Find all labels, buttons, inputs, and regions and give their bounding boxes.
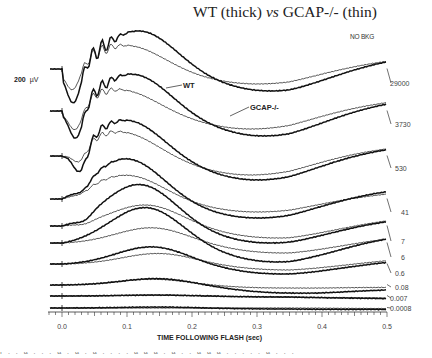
trace-gcap-0.6 (50, 253, 386, 270)
trace-gcap-41 (50, 175, 386, 212)
intensity-label-0.007: 0.007 (390, 295, 408, 302)
trace-wt-6 (50, 207, 386, 262)
trace-wt-0.007 (50, 295, 386, 299)
x-tick-label: 0.4 (317, 323, 327, 330)
x-tick-label: 0.2 (187, 323, 197, 330)
trace-gcap-3730 (50, 88, 386, 130)
label-leader (387, 111, 391, 125)
intensity-label-530: 530 (395, 165, 407, 172)
label-leader (387, 243, 391, 258)
label-leader (387, 226, 391, 242)
erg-traces-plot (0, 0, 432, 358)
x-axis-label: TIME FOLLOWING FLASH (sec) (157, 334, 262, 341)
intensity-label-0.08: 0.08 (395, 284, 409, 291)
intensity-label-7: 7 (401, 238, 405, 245)
intensity-label-41: 41 (401, 209, 409, 216)
intensity-label-0.6: 0.6 (395, 270, 405, 277)
trace-wt-41 (50, 159, 386, 219)
intensity-label-3730: 3730 (395, 121, 411, 128)
intensity-label-0.0008: 0.0008 (390, 305, 411, 312)
label-leader (387, 264, 391, 274)
x-tick-label: 0.3 (252, 323, 262, 330)
label-leader (387, 199, 391, 213)
annotation-gcap: GCAP-/- (250, 103, 279, 112)
intensity-label-6: 6 (401, 254, 405, 261)
annotation-wt: WT (183, 81, 195, 90)
trace-wt-530 (50, 120, 386, 180)
caption-fragment: f . . a . . . a . a . a . . . . a a a . … (0, 352, 300, 358)
x-tick-label: 0.0 (57, 323, 67, 330)
label-leader (387, 285, 391, 288)
arrow-wt-icon (166, 85, 182, 88)
x-tick-label: 0.5 (382, 323, 392, 330)
intensity-label-29000: 29000 (390, 80, 409, 87)
arrow-gcap-icon (230, 107, 249, 116)
trace-wt-7 (50, 184, 386, 243)
label-leader (387, 156, 391, 169)
x-tick-label: 0.1 (122, 323, 132, 330)
